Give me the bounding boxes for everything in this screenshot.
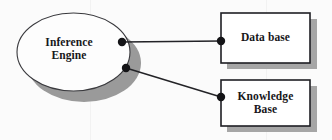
connector-engine-to-knowledge — [126, 68, 221, 97]
knowledge-base-box[interactable] — [221, 80, 310, 126]
connector-dot-engine-upper[interactable] — [118, 38, 126, 46]
data-base-box[interactable] — [221, 13, 310, 63]
connector-dot-knowledge[interactable] — [217, 93, 225, 101]
diagram-canvas: Inference Engine Data base Knowledge Bas… — [0, 0, 332, 140]
connector-engine-to-database — [122, 41, 221, 42]
inference-engine-ellipse[interactable] — [17, 13, 130, 91]
connector-dot-engine-lower[interactable] — [122, 64, 130, 72]
diagram-graphics — [0, 0, 332, 140]
connector-dot-database[interactable] — [217, 37, 225, 45]
